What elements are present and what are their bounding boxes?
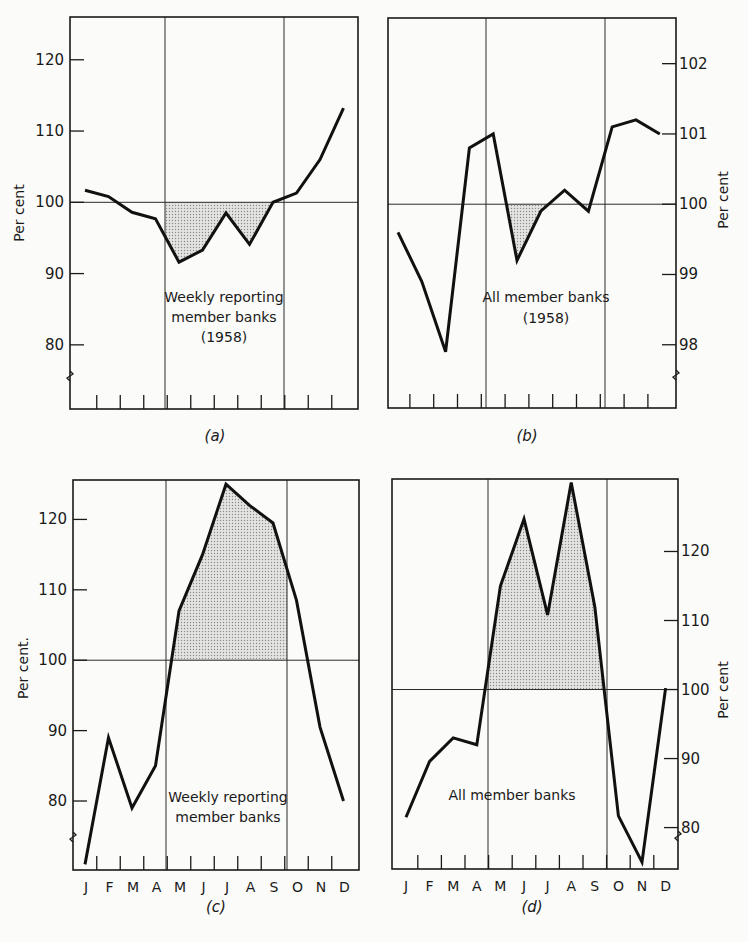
y-tick-label: 100 xyxy=(679,195,708,213)
y-tick-label: 100 xyxy=(38,651,67,669)
annotation-b-line2: (1958) xyxy=(523,310,570,326)
y-axis-label-b: Per cent xyxy=(715,171,731,229)
shaded-deviation-area xyxy=(85,108,344,262)
plot-area-a: 8090100110120 xyxy=(35,17,358,409)
data-series-line xyxy=(85,108,344,262)
annotation-c-line2: member banks xyxy=(175,809,280,825)
y-axis-label-d: Per cent xyxy=(715,661,731,719)
y-tick-label: 110 xyxy=(38,581,67,599)
month-label: M xyxy=(447,878,459,894)
caption-b: (b) xyxy=(516,427,537,445)
annotation-d-line1: All member banks xyxy=(448,787,575,803)
y-tick-label: 80 xyxy=(45,336,64,354)
month-label: M xyxy=(174,879,186,895)
y-tick-label: 120 xyxy=(38,510,67,528)
month-label: D xyxy=(660,878,671,894)
month-label: F xyxy=(426,878,434,894)
y-tick-label: 120 xyxy=(681,542,710,560)
chart-panel-a: 8090100110120 Per cent Weekly reporting … xyxy=(11,17,358,445)
shaded-deviation-area xyxy=(85,484,344,864)
y-tick-label: 90 xyxy=(48,722,67,740)
chart-panel-b: 9899100101102 Per cent All member banks … xyxy=(388,18,731,445)
y-tick-label: 110 xyxy=(35,122,64,140)
annotation-c-line1: Weekly reporting xyxy=(168,789,287,805)
month-label: S xyxy=(590,878,599,894)
plot-area-d: 8090100110120JFMAMJJASOND xyxy=(392,479,710,894)
y-tick-label: 100 xyxy=(35,193,64,211)
chart-panel-d: 8090100110120JFMAMJJASOND Per cent All m… xyxy=(392,479,731,916)
month-label: N xyxy=(637,878,647,894)
month-label: A xyxy=(152,879,162,895)
y-axis-label-c: Per cent. xyxy=(15,637,31,699)
month-label: M xyxy=(127,879,139,895)
month-label: J xyxy=(403,878,408,894)
month-label: N xyxy=(316,879,326,895)
month-label: M xyxy=(494,878,506,894)
y-tick-label: 90 xyxy=(45,265,64,283)
month-label: D xyxy=(339,879,350,895)
plot-area-b: 9899100101102 xyxy=(388,18,708,408)
y-tick-label: 99 xyxy=(679,265,698,283)
month-label: J xyxy=(200,879,205,895)
plot-area-c: 8090100110120JFMAMJJASOND xyxy=(38,480,359,895)
figure-canvas: 8090100110120 Per cent Weekly reporting … xyxy=(0,0,748,942)
month-label: S xyxy=(270,879,279,895)
annotation-a-line1: Weekly reporting xyxy=(164,289,283,305)
month-label: J xyxy=(83,879,88,895)
month-label: A xyxy=(472,878,482,894)
month-label: A xyxy=(566,878,576,894)
y-axis-label-a: Per cent xyxy=(11,184,27,242)
y-tick-label: 102 xyxy=(679,55,708,73)
month-label: J xyxy=(521,878,526,894)
annotation-a-line2: member banks xyxy=(171,309,276,325)
figure-seasonal-bank-panels: 8090100110120 Per cent Weekly reporting … xyxy=(0,0,748,942)
month-label: A xyxy=(246,879,256,895)
month-label: J xyxy=(545,878,550,894)
month-label: J xyxy=(224,879,229,895)
y-tick-label: 80 xyxy=(681,819,700,837)
y-tick-label: 110 xyxy=(681,612,710,630)
caption-c: (c) xyxy=(206,898,226,916)
annotation-b-line1: All member banks xyxy=(482,289,609,305)
y-tick-label: 98 xyxy=(679,336,698,354)
caption-d: (d) xyxy=(521,898,542,916)
y-tick-label: 80 xyxy=(48,792,67,810)
month-label: F xyxy=(105,879,113,895)
caption-a: (a) xyxy=(205,427,226,445)
y-tick-label: 100 xyxy=(681,681,710,699)
shaded-deviation-area xyxy=(406,482,666,862)
month-label: O xyxy=(613,878,624,894)
y-tick-label: 101 xyxy=(679,125,708,143)
y-tick-label: 90 xyxy=(681,750,700,768)
y-tick-label: 120 xyxy=(35,51,64,69)
chart-panel-c: 8090100110120JFMAMJJASOND Per cent. Week… xyxy=(15,480,359,916)
annotation-a-line3: (1958) xyxy=(201,329,248,345)
month-label: O xyxy=(292,879,303,895)
